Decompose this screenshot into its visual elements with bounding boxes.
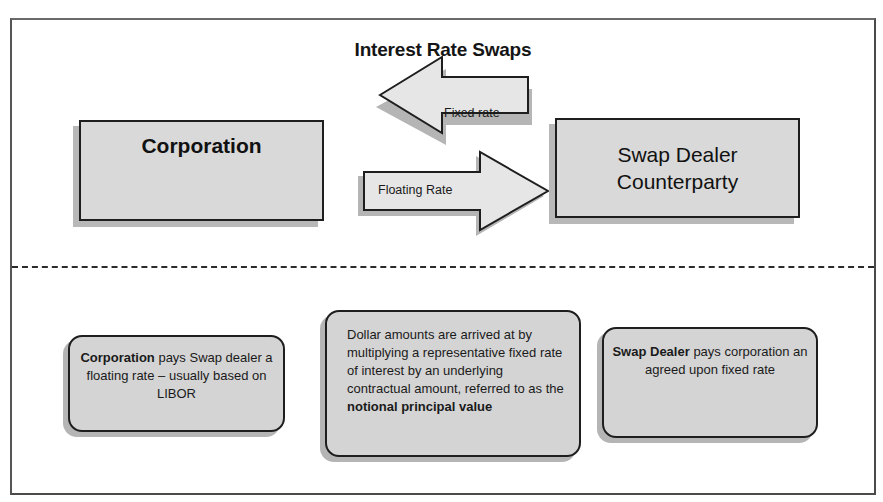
swap-dealer-box: Swap Dealer Counterparty (555, 118, 800, 218)
dashed-divider (12, 266, 874, 268)
corporation-box: Corporation (79, 120, 324, 221)
floating-rate-label: Floating Rate (378, 183, 452, 197)
swap-dealer-label-line1: Swap Dealer (617, 143, 737, 166)
corporation-label: Corporation (141, 134, 261, 158)
corporation-note: Corporation pays Swap dealer a floating … (68, 335, 285, 432)
fixed-rate-arrow: Fixed rate (380, 77, 530, 151)
swap-dealer-note-bold: Swap Dealer (612, 344, 689, 359)
notional-note-bold: notional principal value (347, 399, 492, 414)
notional-note-text: Dollar amounts are arrived at by multipl… (347, 327, 564, 396)
swap-dealer-note: Swap Dealer pays corporation an agreed u… (602, 327, 818, 438)
floating-rate-arrow: Floating Rate (362, 154, 547, 228)
diagram-frame: Interest Rate Swaps Corporation Fixed ra… (10, 18, 876, 495)
notional-note: Dollar amounts are arrived at by multipl… (325, 310, 581, 457)
swap-dealer-label: Swap Dealer Counterparty (617, 141, 738, 196)
fixed-rate-label: Fixed rate (444, 106, 500, 120)
swap-dealer-label-line2: Counterparty (617, 170, 738, 193)
corporation-note-bold: Corporation (80, 350, 154, 365)
